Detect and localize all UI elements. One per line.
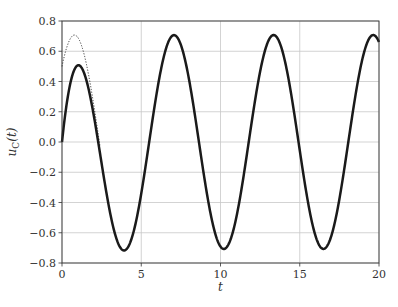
y-tick-label: 0.2: [39, 106, 57, 119]
grid-lines: [62, 21, 379, 263]
y-tick-label: −0.4: [29, 197, 56, 210]
x-axis-label: t: [218, 280, 223, 294]
y-tick-label: −0.8: [29, 257, 56, 270]
x-tick-label: 0: [59, 268, 66, 281]
chart: 05101520−0.8−0.6−0.4−0.20.00.20.40.60.8 …: [0, 0, 398, 307]
y-axis-label: uC(t): [5, 127, 21, 156]
y-tick-label: 0.4: [39, 76, 57, 89]
x-tick-label: 15: [293, 268, 307, 281]
y-tick-label: −0.6: [29, 227, 56, 240]
y-tick-label: 0.0: [39, 136, 57, 149]
tick-labels: 05101520−0.8−0.6−0.4−0.20.00.20.40.60.8: [29, 15, 386, 281]
y-tick-label: 0.8: [39, 15, 57, 28]
axes: [59, 21, 380, 267]
x-tick-label: 5: [138, 268, 145, 281]
y-tick-label: −0.2: [29, 166, 56, 179]
x-tick-label: 20: [372, 268, 386, 281]
y-tick-label: 0.6: [39, 45, 57, 58]
